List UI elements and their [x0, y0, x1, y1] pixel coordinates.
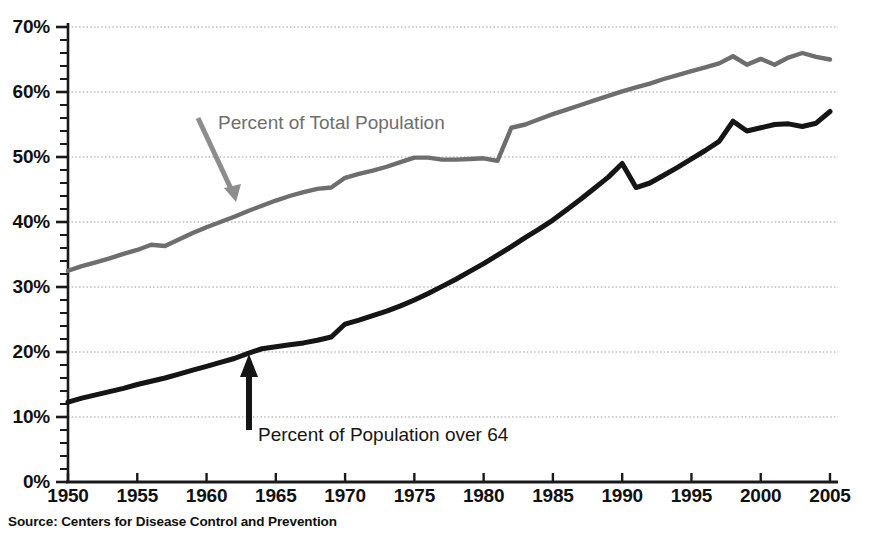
x-tick-label: 1950 [28, 486, 108, 505]
series-line-total-population [68, 53, 830, 271]
y-tick-label: 60% [0, 82, 50, 101]
x-tick-label: 1975 [374, 486, 454, 505]
y-tick-label: 40% [0, 212, 50, 231]
x-tick-label: 1955 [97, 486, 177, 505]
line-chart-plot [0, 0, 871, 545]
data-series [68, 53, 830, 402]
y-axis-major-ticks [56, 27, 68, 482]
gray-annotation-arrow-head [224, 184, 241, 202]
y-tick-label: 30% [0, 277, 50, 296]
gridlines [68, 27, 838, 417]
x-tick-label: 1970 [305, 486, 385, 505]
x-tick-label: 1965 [236, 486, 316, 505]
black-series-annotation-label: Percent of Population over 64 [258, 424, 508, 446]
x-tick-label: 1995 [651, 486, 731, 505]
chart-container: 0%10%20%30%40%50%60%70% 1950195519601965… [0, 0, 871, 545]
y-tick-label: 50% [0, 147, 50, 166]
y-tick-label: 10% [0, 407, 50, 426]
annotation-arrows [198, 118, 258, 430]
source-note: Source: Centers for Disease Control and … [8, 514, 337, 529]
x-tick-label: 2005 [790, 486, 870, 505]
gray-series-annotation-label: Percent of Total Population [218, 112, 445, 134]
x-tick-label: 1985 [513, 486, 593, 505]
x-tick-label: 1960 [167, 486, 247, 505]
series-line-population-over-64 [68, 112, 830, 403]
y-tick-label: 20% [0, 342, 50, 361]
y-tick-label: 70% [0, 17, 50, 36]
x-tick-label: 2000 [721, 486, 801, 505]
x-tick-label: 1990 [582, 486, 662, 505]
x-tick-label: 1980 [444, 486, 524, 505]
